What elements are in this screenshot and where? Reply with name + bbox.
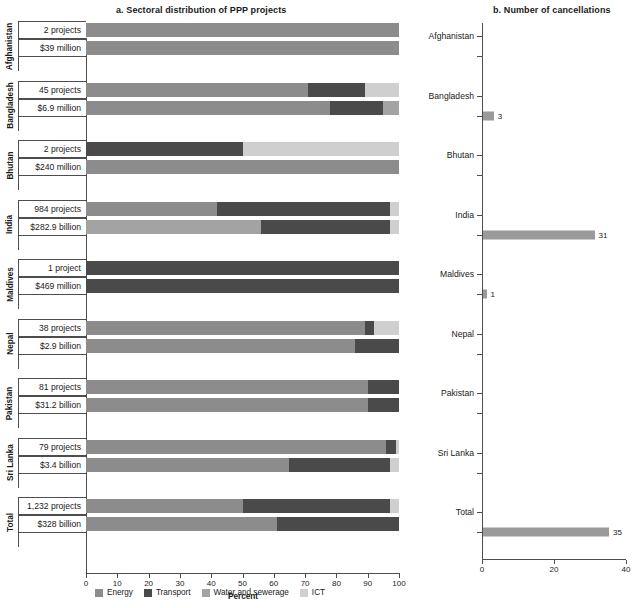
x-tick-label: 70 — [301, 579, 310, 588]
y-tick — [477, 56, 482, 57]
chart-row: 984 projects — [18, 200, 420, 218]
chart-row: 79 projects — [18, 438, 420, 456]
y-tick — [477, 473, 482, 474]
y-tick — [477, 36, 482, 37]
bar-segment-transport — [86, 261, 399, 275]
chart-row: $31.2 billion — [18, 396, 420, 414]
stacked-bar — [86, 23, 399, 37]
bar-segment-energy — [86, 458, 289, 472]
bar-segment-ict — [390, 499, 399, 513]
bar-segment-energy — [86, 517, 277, 531]
x-tick-label: 0 — [480, 565, 484, 574]
cancellations-bar — [483, 290, 487, 299]
bar-segment-energy — [86, 440, 386, 454]
bar-segment-energy — [86, 339, 355, 353]
legend-swatch-ict — [300, 589, 308, 597]
bar-segment-energy — [86, 202, 217, 216]
bar-segment-transport — [217, 202, 389, 216]
stacked-bar — [86, 499, 399, 513]
bar-segment-water — [86, 220, 261, 234]
bar-segment-ict — [396, 440, 399, 454]
x-tick-label: 90 — [363, 579, 372, 588]
y-tick — [477, 512, 482, 513]
panel-b-category-nepal: Nepal — [420, 329, 474, 339]
chart-row: 81 projects — [18, 378, 420, 396]
country-group: Afghanistan2 projects$39 million — [0, 21, 420, 71]
stacked-bar — [86, 160, 399, 174]
country-label-text: Pakistan — [6, 386, 15, 420]
legend-swatch-transport — [144, 589, 152, 597]
x-tick-label: 20 — [550, 565, 559, 574]
stacked-bar — [86, 261, 399, 275]
y-tick — [477, 532, 482, 533]
country-group: Bangladesh45 projects$6.9 million — [0, 81, 420, 131]
stacked-bar — [86, 279, 399, 293]
stacked-bar — [86, 321, 399, 335]
legend-item-ict: ICT — [300, 588, 325, 597]
y-tick — [477, 294, 482, 295]
x-tick-label: 50 — [238, 579, 247, 588]
country-label-text: India — [6, 215, 15, 234]
x-tick — [482, 560, 483, 564]
country-group: Maldives1 project$469 million — [0, 259, 420, 309]
x-tick — [149, 574, 150, 578]
bar-segment-transport — [86, 279, 399, 293]
panel-b-category-bhutan: Bhutan — [420, 150, 474, 160]
legend-label: ICT — [312, 588, 325, 597]
country-label-text: Bangladesh — [6, 82, 15, 128]
country-group: Pakistan81 projects$31.2 billion — [0, 378, 420, 428]
stacked-bar — [86, 440, 399, 454]
chart-row: $240 million — [18, 158, 420, 176]
x-tick-label: 30 — [175, 579, 184, 588]
row-value-label: $31.2 billion — [18, 396, 84, 414]
panel-b-title: b. Number of cancellations — [493, 5, 611, 15]
y-tick — [477, 274, 482, 275]
chart-row: $39 million — [18, 39, 420, 57]
country-label-pakistan: Pakistan — [2, 378, 18, 428]
row-value-label: 81 projects — [18, 378, 84, 396]
country-label-sri-lanka: Sri Lanka — [2, 438, 18, 488]
country-label-nepal: Nepal — [2, 319, 18, 369]
cancellations-bar — [483, 230, 595, 239]
country-label-text: Bhutan — [6, 151, 15, 179]
x-tick — [180, 574, 181, 578]
bar-segment-transport — [86, 142, 243, 156]
bar-segment-energy — [86, 160, 399, 174]
chart-legend: EnergyTransportWater and sewerageICT — [0, 588, 420, 597]
x-tick — [117, 574, 118, 578]
panel-b-category-pakistan: Pakistan — [420, 388, 474, 398]
x-tick-label: 100 — [392, 579, 405, 588]
chart-row: 1,232 projects — [18, 497, 420, 515]
country-label-text: Afghanistan — [6, 22, 15, 69]
chart-row: 2 projects — [18, 21, 420, 39]
chart-row: $2.9 billion — [18, 337, 420, 355]
panel-b-category-maldives: Maldives — [420, 269, 474, 279]
stacked-bar — [86, 398, 399, 412]
y-tick — [477, 96, 482, 97]
y-tick — [477, 334, 482, 335]
bar-segment-energy — [86, 101, 330, 115]
x-tick — [336, 574, 337, 578]
stacked-bar — [86, 458, 399, 472]
row-value-label: $2.9 billion — [18, 337, 84, 355]
stacked-bar — [86, 83, 399, 97]
row-value-label: 1,232 projects — [18, 497, 84, 515]
bar-segment-ict — [390, 458, 399, 472]
cancellations-bar — [483, 528, 609, 537]
bar-segment-energy — [86, 23, 399, 37]
x-tick — [399, 574, 400, 578]
chart-row: $3.4 billion — [18, 456, 420, 474]
bar-segment-water — [383, 101, 399, 115]
country-group: India984 projects$282.9 billion — [0, 200, 420, 250]
legend-item-transport: Transport — [144, 588, 191, 597]
chart-row: 1 project — [18, 259, 420, 277]
country-group: Nepal38 projects$2.9 billion — [0, 319, 420, 369]
panel-b-category-sri-lanka: Sri Lanka — [420, 448, 474, 458]
row-value-label: $240 million — [18, 158, 84, 176]
chart-row: 45 projects — [18, 81, 420, 99]
legend-label: Transport — [156, 588, 191, 597]
bar-segment-energy — [86, 83, 308, 97]
bar-segment-ict — [243, 142, 400, 156]
cancellations-bar — [483, 111, 494, 120]
bar-segment-transport — [355, 339, 399, 353]
